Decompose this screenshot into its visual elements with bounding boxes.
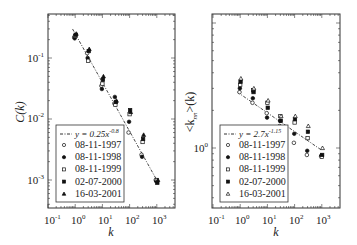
left-xtick-label: 10-1 (44, 213, 61, 226)
right-xtick-label: 102 (289, 213, 304, 226)
square-filled-marker-icon (252, 90, 255, 93)
left-legend: y = 0.25x-0.8 08-11-199708-11-199808-11-… (56, 125, 124, 202)
legend-entry-label: 02-07-2000 (239, 176, 286, 187)
circle-open-marker-icon (226, 143, 229, 146)
left-ytick-label: 10-2 (27, 111, 44, 124)
circle-filled-marker-icon (113, 95, 117, 99)
square-filled-marker-icon (101, 78, 104, 81)
circle-open-marker-icon (62, 143, 65, 146)
triangle-filled-marker-icon (142, 133, 146, 137)
triangle-open-marker-icon (252, 86, 256, 90)
square-filled-marker-icon (306, 130, 309, 133)
circle-filled-marker-icon (292, 132, 296, 136)
triangle-open-marker-icon (293, 114, 297, 118)
circle-filled-marker-icon (265, 116, 269, 120)
circle-filled-marker-icon (251, 96, 255, 100)
legend-entry-label: 08-11-1997 (75, 139, 121, 150)
triangle-filled-marker-icon (114, 99, 118, 103)
left-xtick-label: 102 (125, 213, 140, 226)
triangle-open-marker-icon (321, 146, 325, 150)
circle-filled-marker-icon (305, 149, 309, 153)
square-open-marker-icon (101, 82, 104, 85)
right-legend: y = 2.7x-1.15 08-11-199708-11-199808-11-… (220, 125, 288, 202)
square-open-marker-icon (62, 168, 65, 171)
legend-entry-label: 08-11-1999 (75, 163, 121, 174)
circle-open-marker-icon (238, 90, 242, 94)
left-y-axis-label: C(k) (13, 101, 27, 122)
legend-entry-label: 08-11-1999 (239, 163, 285, 174)
circle-open-marker-icon (292, 141, 296, 145)
circle-open-marker-icon (305, 153, 309, 157)
right-xtick-label: 10-1 (208, 213, 225, 226)
left-x-axis-label: k (108, 225, 114, 239)
circle-open-marker-icon (265, 111, 269, 115)
circle-open-marker-icon (251, 101, 255, 105)
legend-entry-label: 02-07-2000 (75, 176, 122, 187)
right-y-axis-label: <knn>(k) (183, 92, 199, 133)
left-xtick-label: 103 (152, 213, 167, 226)
square-filled-marker-icon (266, 106, 269, 109)
figure: 10-1 10-2 10-3 10-1 100 101 102 103 k C(… (0, 0, 357, 245)
circle-filled-marker-icon (226, 156, 229, 159)
square-open-marker-icon (306, 136, 309, 139)
circle-filled-marker-icon (238, 87, 242, 91)
triangle-open-marker-icon (266, 98, 270, 102)
right-xtick-label: 100 (235, 213, 250, 226)
right-panel-knn: 100 10-1 100 101 102 103 k <knn>(k) y = … (183, 14, 340, 239)
square-filled-marker-icon (320, 153, 323, 156)
left-ytick-label: 10-3 (27, 173, 44, 186)
square-filled-marker-icon (226, 180, 229, 183)
square-open-marker-icon (86, 59, 89, 62)
triangle-open-marker-icon (239, 76, 243, 80)
square-open-marker-icon (293, 121, 296, 124)
left-ytick-label: 10-1 (27, 51, 44, 64)
circle-filled-marker-icon (127, 120, 131, 124)
legend-entry-label: 08-11-1997 (239, 139, 285, 150)
legend-entry-label: 16-03-2001 (75, 188, 122, 199)
triangle-filled-marker-icon (87, 47, 91, 51)
square-filled-marker-icon (62, 180, 65, 183)
left-panel-clustering: 10-1 10-2 10-3 10-1 100 101 102 103 k C(… (13, 14, 175, 239)
legend-entry-label: 08-11-1998 (75, 151, 121, 162)
circle-filled-marker-icon (140, 155, 144, 159)
square-open-marker-icon (226, 168, 229, 171)
square-filled-marker-icon (279, 119, 282, 122)
right-x-axis-label: k (273, 225, 279, 239)
square-open-marker-icon (239, 83, 242, 86)
circle-open-marker-icon (127, 131, 131, 135)
right-ytick-label: 100 (194, 141, 209, 154)
legend-entry-label: 16-03-2001 (239, 188, 286, 199)
square-filled-marker-icon (141, 137, 144, 140)
triangle-filled-marker-icon (74, 32, 78, 36)
triangle-open-marker-icon (306, 124, 310, 128)
left-xtick-label: 100 (71, 213, 86, 226)
circle-filled-marker-icon (100, 87, 104, 91)
triangle-filled-marker-icon (101, 74, 105, 78)
circle-filled-marker-icon (62, 156, 65, 159)
right-xtick-label: 103 (316, 213, 331, 226)
legend-entry-label: 08-11-1998 (239, 151, 285, 162)
